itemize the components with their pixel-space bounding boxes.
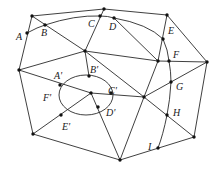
- label-F-prime: F': [42, 92, 52, 103]
- diagram-canvas: A B C D E F G H I A' B' C' D' E' F': [0, 0, 222, 170]
- label-I: I: [147, 141, 152, 152]
- label-G: G: [176, 81, 183, 92]
- label-D-prime: D': [105, 107, 116, 118]
- label-C: C: [88, 18, 95, 29]
- label-C-prime: C': [108, 85, 118, 96]
- label-A-prime: A': [53, 70, 63, 81]
- label-D: D: [108, 21, 117, 32]
- inner-ellipse: [59, 75, 113, 115]
- label-B: B: [41, 27, 47, 38]
- label-H: H: [172, 107, 181, 118]
- geometry-diagram: A B C D E F G H I A' B' C' D' E' F': [0, 0, 222, 170]
- label-E: E: [167, 25, 174, 36]
- label-F: F: [172, 49, 180, 60]
- label-A: A: [15, 31, 23, 42]
- label-B-prime: B': [90, 64, 99, 75]
- label-E-prime: E': [61, 121, 71, 132]
